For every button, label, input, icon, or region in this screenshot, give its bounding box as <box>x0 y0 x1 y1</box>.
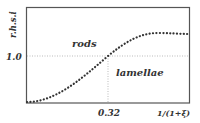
rods-region-label: rods <box>72 38 97 49</box>
x-axis-label: 1/(1+ξ) <box>157 108 190 118</box>
y-tick-label: 1.0 <box>6 52 22 62</box>
lamellae-region-label: lamellae <box>116 67 164 78</box>
phase-diagram-chart: r.h.s.i 1.0 0.32 1/(1+ξ) rods lamellae <box>0 0 200 123</box>
y-axis-label: r.h.s.i <box>8 11 18 38</box>
x-tick-label: 0.32 <box>98 108 120 118</box>
